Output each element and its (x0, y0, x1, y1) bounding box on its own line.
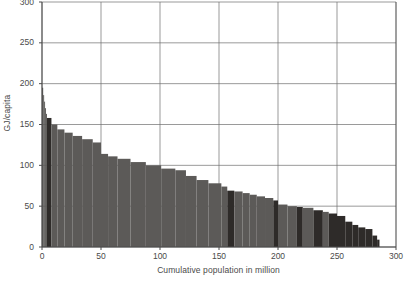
bar-segment (73, 136, 82, 247)
bar-segment (250, 195, 257, 247)
bar-segment (297, 207, 303, 247)
bar-segment (101, 154, 108, 247)
bar-segment (82, 139, 93, 247)
chart-container: GJ/capita Cumulative population in milli… (0, 0, 410, 283)
bar-segment (161, 169, 175, 247)
bar-segment (46, 114, 47, 247)
bar-segment (265, 198, 273, 247)
bar-segment (108, 156, 117, 247)
bar-segment (273, 200, 278, 247)
bar-segment (257, 196, 265, 247)
bar-segment (337, 216, 345, 247)
bar-segment (44, 102, 45, 247)
bar-segment (131, 162, 146, 247)
bar-segment (227, 191, 234, 247)
bar-segment (64, 133, 72, 247)
bar-segment (47, 118, 51, 247)
bar-segment (243, 193, 250, 247)
bar-segment (377, 240, 379, 247)
bar-segment (43, 95, 44, 247)
bar-segment (93, 142, 101, 247)
bar-segment (234, 191, 242, 247)
bar-segment (358, 227, 365, 247)
bar-segment (372, 236, 377, 247)
bar-segment (323, 212, 329, 247)
bar-segment (186, 176, 197, 247)
bar-segment (303, 208, 314, 247)
bar-segment (278, 205, 287, 247)
plot-area (0, 0, 410, 283)
bar-segment (329, 214, 337, 247)
bar-segment (208, 183, 221, 247)
bar-segment (146, 165, 161, 247)
bar-segment (313, 210, 322, 247)
bar-segment (365, 229, 372, 247)
bar-segment (45, 108, 46, 247)
bar-segment (57, 129, 64, 247)
bar-series (42, 88, 379, 247)
bar-segment (345, 222, 352, 247)
bar-segment (175, 170, 186, 247)
bar-segment (51, 125, 57, 248)
bar-segment (118, 159, 131, 247)
bar-segment (287, 206, 296, 247)
bar-segment (352, 225, 358, 247)
bar-segment (221, 187, 227, 247)
bar-segment (197, 180, 209, 247)
